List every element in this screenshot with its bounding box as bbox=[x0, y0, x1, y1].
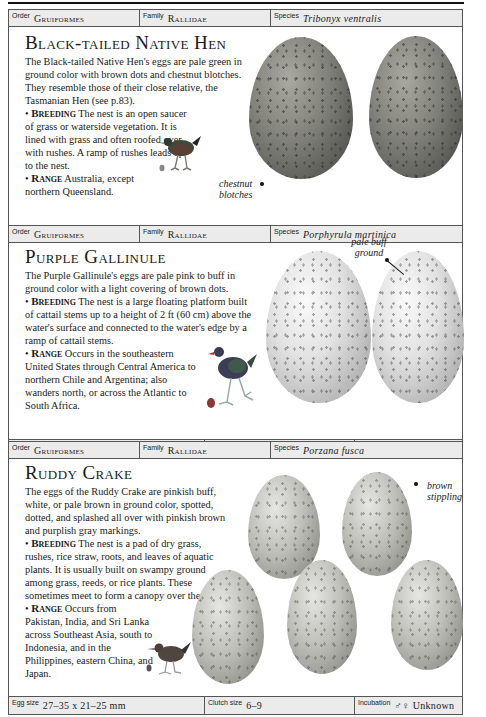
page-top-rule bbox=[8, 2, 464, 4]
range-paragraph: • Range Occurs from Pakistan, India, and… bbox=[25, 602, 155, 680]
species-card-purple-gallinule: OrderGruiformes FamilyRallidae SpeciesPo… bbox=[8, 225, 463, 458]
order-value: Gruiformes bbox=[34, 13, 84, 24]
species-title: Black-tailed Native Hen bbox=[25, 32, 226, 54]
intro-text: The Black-tailed Native Hen's eggs are p… bbox=[25, 55, 253, 107]
breeding-label: Breeding bbox=[31, 295, 76, 307]
family-value: Rallidae bbox=[168, 13, 207, 24]
family-cell: FamilyRallidae bbox=[140, 226, 271, 242]
species-label: Species bbox=[274, 228, 299, 235]
incubation-label: Incubation bbox=[358, 699, 390, 706]
egg-annotation: brown stippling bbox=[427, 480, 463, 502]
family-cell: FamilyRallidae bbox=[140, 442, 271, 458]
family-value: Rallidae bbox=[168, 229, 207, 240]
order-label: Order bbox=[12, 444, 30, 451]
egg-size-label: Egg size bbox=[12, 699, 39, 706]
family-label: Family bbox=[143, 228, 164, 235]
species-cell: SpeciesTribonyx ventralis bbox=[271, 10, 462, 26]
species-value: Porzana fusca bbox=[303, 445, 364, 456]
incubation-cell: Incubation♂♀ Unknown bbox=[355, 697, 462, 714]
egg-photo-4 bbox=[287, 560, 357, 674]
intro-text: The eggs of the Ruddy Crake are pinkish … bbox=[25, 485, 233, 537]
order-value: Gruiformes bbox=[34, 445, 84, 456]
range-label: Range bbox=[31, 602, 62, 614]
breeding-paragraph: • Breeding The nest is a large floating … bbox=[25, 295, 257, 347]
egg-photo-2 bbox=[369, 36, 463, 178]
taxonomy-header: OrderGruiformes FamilyRallidae SpeciesPo… bbox=[9, 442, 462, 459]
family-value: Rallidae bbox=[168, 445, 207, 456]
breeding-label: Breeding bbox=[31, 107, 76, 119]
breeding-paragraph: • Breeding The nest is a pad of dry gras… bbox=[25, 537, 225, 602]
species-label: Species bbox=[274, 12, 299, 19]
egg-photo-2 bbox=[372, 251, 464, 403]
range-paragraph: • Range Occurs in the southeastern Unite… bbox=[25, 347, 203, 412]
egg-annotation: pale buff ground bbox=[349, 236, 389, 258]
egg-size-value: 27–35 x 21–25 mm bbox=[43, 700, 126, 711]
family-label: Family bbox=[143, 12, 164, 19]
species-cell: SpeciesPorzana fusca bbox=[271, 442, 462, 458]
order-cell: OrderGruiformes bbox=[9, 10, 140, 26]
order-value: Gruiformes bbox=[34, 229, 84, 240]
range-label: Range bbox=[31, 172, 62, 184]
clutch-size-cell: Clutch size6–9 bbox=[205, 697, 355, 714]
range-label: Range bbox=[31, 347, 62, 359]
species-label: Species bbox=[274, 444, 299, 451]
annotation-pointer-dot bbox=[260, 182, 264, 186]
egg-photo-1 bbox=[266, 251, 371, 403]
species-value: Tribonyx ventralis bbox=[303, 13, 381, 24]
bird-illustration bbox=[159, 130, 207, 178]
species-title: Purple Gallinule bbox=[25, 246, 166, 268]
egg-photo-3 bbox=[192, 570, 264, 684]
species-card-black-tailed-native-hen: OrderGruiformes FamilyRallidae SpeciesTr… bbox=[8, 9, 463, 247]
egg-photo-2 bbox=[342, 472, 412, 576]
intro-text: The Purple Gallinule's eggs are pale pin… bbox=[25, 269, 257, 295]
species-card-ruddy-crake: OrderGruiformes FamilyRallidae SpeciesPo… bbox=[8, 441, 463, 715]
taxonomy-header: OrderGruiformes FamilyRallidae SpeciesTr… bbox=[9, 10, 462, 27]
range-paragraph: • Range Australia, except northern Queen… bbox=[25, 172, 165, 198]
species-title: Ruddy Crake bbox=[25, 462, 132, 484]
egg-photo-5 bbox=[391, 560, 463, 670]
annotation-pointer-dot bbox=[414, 482, 418, 486]
range-text: Occurs from Pakistan, India, and Sri Lan… bbox=[25, 603, 153, 679]
bird-illustration bbox=[205, 344, 265, 410]
taxonomy-header: OrderGruiformes FamilyRallidae SpeciesPo… bbox=[9, 226, 462, 243]
family-label: Family bbox=[143, 444, 164, 451]
order-cell: OrderGruiformes bbox=[9, 442, 140, 458]
family-cell: FamilyRallidae bbox=[140, 10, 271, 26]
clutch-size-value: 6–9 bbox=[246, 700, 262, 711]
clutch-size-label: Clutch size bbox=[208, 699, 242, 706]
egg-stats-footer: Egg size27–35 x 21–25 mm Clutch size6–9 … bbox=[9, 696, 462, 714]
breeding-label: Breeding bbox=[31, 537, 76, 549]
incubation-value: ♂♀ Unknown bbox=[394, 700, 454, 711]
order-label: Order bbox=[12, 12, 30, 19]
order-label: Order bbox=[12, 228, 30, 235]
order-cell: OrderGruiformes bbox=[9, 226, 140, 242]
egg-photo-1 bbox=[249, 37, 353, 179]
bird-illustration bbox=[145, 638, 195, 680]
egg-size-cell: Egg size27–35 x 21–25 mm bbox=[9, 697, 205, 714]
species-description: The Black-tailed Native Hen's eggs are p… bbox=[25, 55, 253, 198]
